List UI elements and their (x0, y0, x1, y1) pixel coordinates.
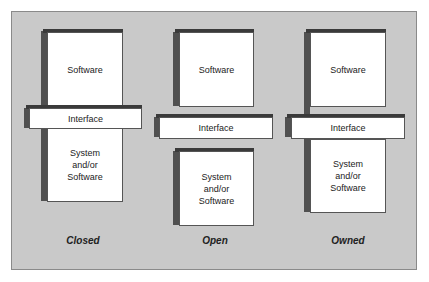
owned-software-box: Software (310, 32, 386, 107)
closed-interface-box: Interface (29, 108, 142, 129)
closed-interface-label: Interface (68, 113, 103, 125)
open-caption: Open (175, 235, 255, 246)
owned-caption: Owned (308, 235, 388, 246)
open-interface-label: Interface (198, 122, 233, 134)
owned-software-label: Software (330, 64, 366, 76)
open-system-box: System and/or Software (179, 151, 254, 226)
owned-system-box: System and/or Software (310, 139, 386, 213)
open-software-label: Software (199, 64, 235, 76)
open-system-label: System and/or Software (192, 171, 242, 207)
closed-caption: Closed (43, 235, 123, 246)
open-software-box: Software (179, 32, 254, 107)
closed-software-box: Software (47, 32, 123, 108)
open-interface-box: Interface (159, 117, 273, 139)
closed-system-label: System and/or Software (60, 147, 110, 183)
closed-software-label: Software (67, 64, 103, 76)
owned-system-label: System and/or Software (323, 158, 373, 194)
closed-system-box: System and/or Software (47, 128, 123, 202)
owned-interface-box: Interface (291, 117, 405, 139)
owned-interface-label: Interface (330, 122, 365, 134)
